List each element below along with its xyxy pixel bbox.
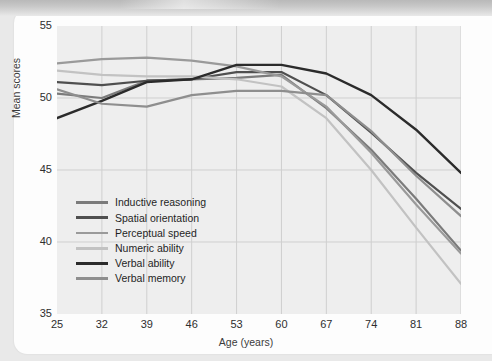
legend-line-swatch-icon <box>76 247 108 250</box>
x-axis-tick-label: 46 <box>175 318 209 330</box>
x-axis-tick-label: 81 <box>399 318 433 330</box>
x-axis-tick-label: 74 <box>354 318 388 330</box>
legend-line-swatch-icon <box>76 201 108 204</box>
legend-item-label: Spatial orientation <box>115 213 199 224</box>
legend-line-swatch-icon <box>76 232 108 235</box>
y-axis-label: Mean scores <box>10 58 22 118</box>
legend-item: Verbal ability <box>76 256 206 271</box>
x-axis-tick-label: 67 <box>309 318 343 330</box>
legend-item: Perceptual speed <box>76 225 206 240</box>
legend-item: Spatial orientation <box>76 210 206 225</box>
line-chart-figure: Mean scores Age (years) 3540455055 25323… <box>0 0 492 361</box>
x-axis-label: Age (years) <box>0 336 492 348</box>
legend-item: Inductive reasoning <box>76 195 206 210</box>
legend-item: Numeric ability <box>76 241 206 256</box>
legend-line-swatch-icon <box>76 277 108 280</box>
legend-line-swatch-icon <box>76 262 108 265</box>
legend-item: Verbal memory <box>76 271 206 286</box>
legend-item-label: Verbal memory <box>115 273 186 284</box>
y-axis-tick-label: 50 <box>22 91 52 103</box>
x-axis-tick-label: 32 <box>85 318 119 330</box>
x-axis-tick-label: 25 <box>40 318 74 330</box>
chart-legend: Inductive reasoningSpatial orientationPe… <box>76 195 206 286</box>
y-axis-tick-label: 40 <box>22 235 52 247</box>
legend-item-label: Verbal ability <box>115 258 175 269</box>
legend-line-swatch-icon <box>76 216 108 219</box>
x-axis-tick-label: 39 <box>130 318 164 330</box>
legend-item-label: Inductive reasoning <box>115 197 206 208</box>
legend-item-label: Numeric ability <box>115 243 184 254</box>
x-axis-tick-label: 53 <box>220 318 254 330</box>
series-line <box>57 65 461 173</box>
x-axis-tick-label: 60 <box>264 318 298 330</box>
y-axis-tick-label: 45 <box>22 163 52 175</box>
legend-item-label: Perceptual speed <box>115 228 197 239</box>
y-axis-tick-label: 55 <box>22 19 52 31</box>
x-axis-tick-label: 88 <box>444 318 478 330</box>
